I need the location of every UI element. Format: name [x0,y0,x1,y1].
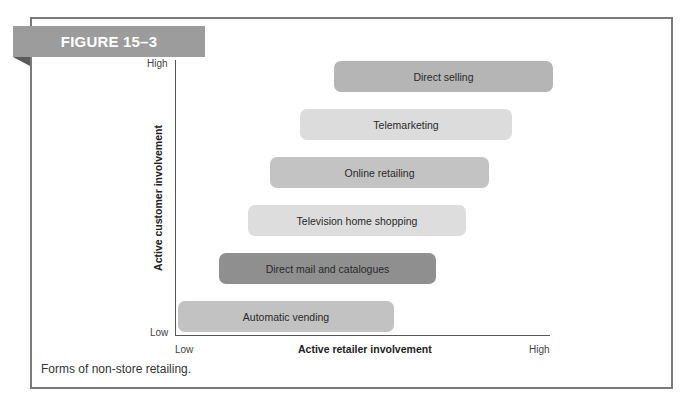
x-axis-label: Active retailer involvement [298,343,432,355]
y-axis-label: Active customer involvement [152,125,164,271]
bar-online-retailing: Online retailing [270,157,489,188]
figure-tab-fold [13,57,30,66]
x-axis-line [175,335,550,336]
bar-television-home-shopping: Television home shopping [248,205,466,236]
y-tick-low: Low [150,327,168,338]
x-tick-high: High [529,344,550,355]
figure-caption: Forms of non-store retailing. [41,362,191,376]
figure-label: FIGURE 15–3 [13,26,205,57]
bar-direct-selling: Direct selling [334,61,553,92]
x-tick-low: Low [175,344,193,355]
y-tick-high: High [147,58,168,69]
bar-direct-mail-catalogues: Direct mail and catalogues [219,253,436,284]
bar-automatic-vending: Automatic vending [178,301,394,332]
figure-canvas: FIGURE 15–3 High Low Low High Active cus… [0,0,693,403]
bar-telemarketing: Telemarketing [300,109,512,140]
y-axis-line [175,60,176,336]
